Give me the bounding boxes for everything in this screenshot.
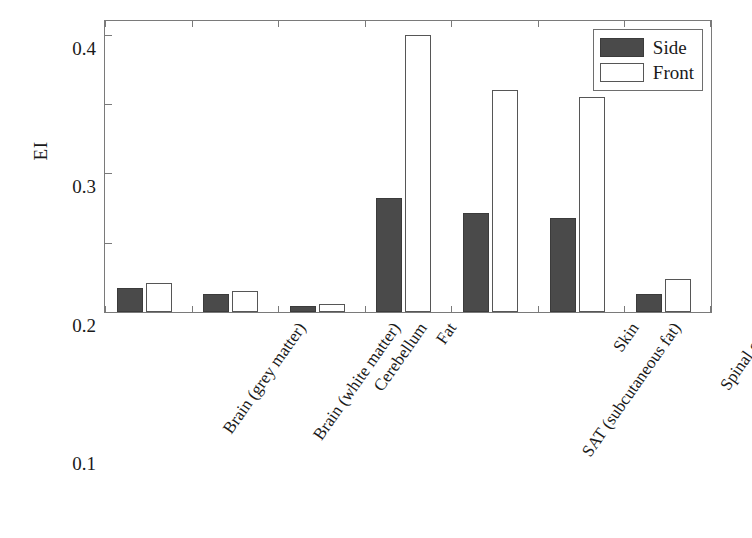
legend-swatch-front-icon xyxy=(600,63,644,82)
legend-item-side: Side xyxy=(600,35,694,60)
bar-front xyxy=(232,291,258,312)
bar-group xyxy=(365,21,452,312)
bar-group xyxy=(278,21,365,312)
y-axis-title: EI xyxy=(30,106,52,196)
bar-front xyxy=(146,283,172,312)
bar-group xyxy=(451,21,538,312)
bar-side xyxy=(550,218,576,312)
x-tick-label: Skin xyxy=(609,319,643,356)
y-tick-label: 0.4 xyxy=(72,38,96,60)
bar-front xyxy=(579,97,605,312)
bar-side xyxy=(117,288,143,312)
y-tick-label: 0.3 xyxy=(72,176,96,198)
bar-front xyxy=(405,35,431,312)
x-tick-label: Fat xyxy=(432,319,461,348)
bar-side xyxy=(376,198,402,312)
bar-side xyxy=(290,306,316,312)
legend-label-side: Side xyxy=(653,38,687,57)
legend-label-front: Front xyxy=(653,63,694,82)
bar-side xyxy=(463,213,489,312)
x-tick-label: Brain (grey matter) xyxy=(219,319,311,438)
bar-side xyxy=(203,294,229,312)
bar-front xyxy=(665,279,691,312)
bar-group xyxy=(192,21,279,312)
x-axis-tick-labels: Brain (grey matter)Brain (white matter)C… xyxy=(104,313,712,513)
bar-front xyxy=(492,90,518,312)
bar-group xyxy=(105,21,192,312)
bar-front xyxy=(319,304,345,312)
legend-item-front: Front xyxy=(600,60,694,85)
chart-legend: Side Front xyxy=(593,29,703,91)
bar-chart-figure: EI 00.10.20.30.4 Side Front Brain (grey … xyxy=(0,0,752,538)
plot-area: 00.10.20.30.4 Side Front xyxy=(104,20,712,313)
y-tick-label: 0.2 xyxy=(72,315,96,337)
y-tick-label: 0.1 xyxy=(72,453,96,475)
x-tick-label: Spinal cord xyxy=(716,319,752,394)
legend-swatch-side-icon xyxy=(600,38,644,57)
bar-side xyxy=(636,294,662,312)
